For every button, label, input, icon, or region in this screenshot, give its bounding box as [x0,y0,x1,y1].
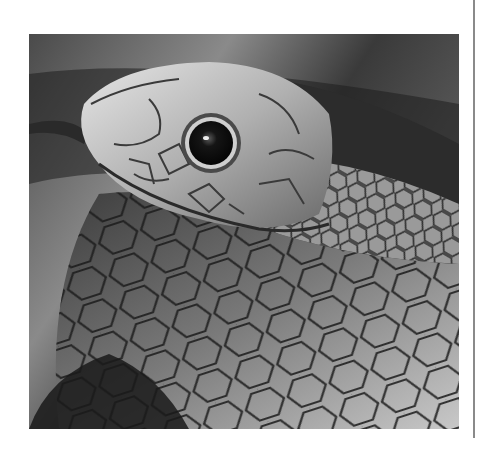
eye [189,121,233,165]
vertical-divider [473,0,475,438]
snake-photo [29,34,459,429]
